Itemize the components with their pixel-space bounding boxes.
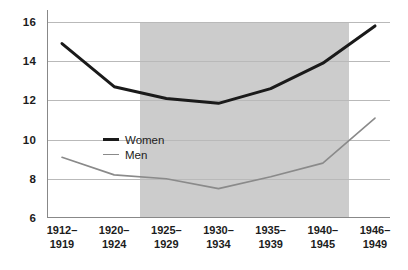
y-tick-label: 12	[0, 94, 36, 106]
y-tick-label: 10	[0, 134, 36, 146]
x-tick-label: 1946–1949	[340, 223, 408, 251]
legend-swatch-men-icon	[103, 154, 119, 155]
x-tick-label-line: 1949	[340, 237, 408, 251]
series-line-women	[62, 26, 375, 103]
series-layer	[47, 22, 390, 218]
legend-item-men: Men	[103, 147, 164, 162]
y-tick-label: 14	[0, 55, 36, 67]
chart-legend: Women Men	[103, 132, 164, 162]
legend-swatch-women-icon	[103, 138, 119, 141]
legend-label-men: Men	[125, 149, 147, 161]
legend-item-women: Women	[103, 132, 164, 147]
legend-label-women: Women	[125, 134, 164, 146]
y-tick-label: 8	[0, 173, 36, 185]
line-chart: 6810121416 1912–19191920–19241925–192919…	[0, 0, 408, 270]
y-tick-label: 16	[0, 16, 36, 28]
plot-area: 6810121416 1912–19191920–19241925–192919…	[47, 22, 390, 218]
x-tick-label-line: 1946–	[340, 223, 408, 237]
